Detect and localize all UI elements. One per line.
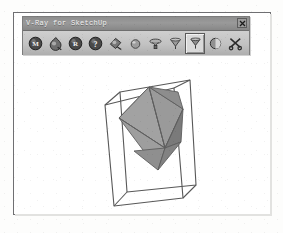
window-title: V-Ray for SketchUp (23, 20, 107, 27)
vray-toolbar-window[interactable]: V-Ray for SketchUp M (22, 16, 250, 55)
render-options-button[interactable]: R (65, 33, 85, 54)
close-button[interactable] (237, 18, 247, 28)
rectangle-light-icon (188, 36, 203, 51)
omni-light-button[interactable] (145, 33, 165, 54)
omni-light-icon (148, 36, 163, 51)
material-droplet-icon (48, 36, 63, 51)
sphere-light-icon (128, 36, 143, 51)
page-background: V-Ray for SketchUp M (0, 0, 283, 233)
help-button[interactable]: ? (85, 33, 105, 54)
apply-material-button[interactable] (105, 33, 125, 54)
material-tag-icon (108, 36, 123, 51)
sphere-r-icon: R (68, 36, 83, 51)
svg-text:?: ? (93, 39, 97, 48)
close-icon (239, 20, 246, 27)
render-button[interactable] (205, 33, 225, 54)
material-editor-button[interactable]: M (25, 33, 45, 54)
sphere-question-icon: ? (88, 36, 103, 51)
scissors-icon (228, 36, 243, 51)
render-region-button[interactable] (225, 33, 245, 54)
window-titlebar[interactable]: V-Ray for SketchUp (23, 17, 249, 31)
rectangle-light-button[interactable] (185, 33, 205, 54)
material-layers-button[interactable] (45, 33, 65, 54)
sphere-m-icon: M (28, 36, 43, 51)
spot-light-icon (168, 36, 183, 51)
render-sphere-icon (208, 36, 223, 51)
toolbar[interactable]: M (23, 31, 249, 55)
sphere-light-button[interactable] (125, 33, 145, 54)
svg-text:M: M (32, 40, 39, 48)
spot-light-button[interactable] (165, 33, 185, 54)
